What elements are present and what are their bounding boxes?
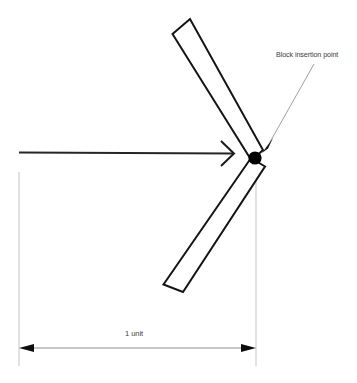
upper-arm-shape	[173, 19, 264, 161]
leader-line	[270, 64, 314, 142]
insertion-point-marker	[248, 151, 261, 164]
diagram-canvas: Block insertion point 1 unit	[0, 0, 357, 383]
dimension-left-arrowhead	[19, 344, 34, 352]
insertion-point-label: Block insertion point	[276, 50, 338, 59]
dimension-label: 1 unit	[125, 329, 143, 338]
lower-arm-shape	[164, 158, 266, 292]
dimension-right-arrowhead	[241, 344, 256, 352]
horizontal-arrow-shaft	[19, 153, 233, 154]
